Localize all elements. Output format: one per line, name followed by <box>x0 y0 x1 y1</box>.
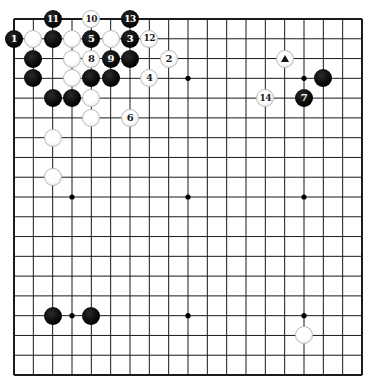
move-number: 3 <box>127 34 133 44</box>
star-point <box>301 194 306 199</box>
star-point <box>301 76 306 81</box>
move-number: 9 <box>107 54 113 64</box>
move-number: 14 <box>260 94 272 103</box>
move-number: 12 <box>144 34 156 43</box>
white-stone: 2 <box>160 50 178 68</box>
white-stone <box>102 30 120 48</box>
black-stone: 7 <box>295 89 313 107</box>
move-number: 1 <box>11 34 17 44</box>
star-point <box>69 313 74 318</box>
black-stone: 13 <box>121 10 139 28</box>
white-stone <box>63 50 81 68</box>
board-grid <box>0 0 373 389</box>
star-point <box>185 194 190 199</box>
white-stone: 6 <box>121 109 139 127</box>
white-stone <box>44 129 62 147</box>
triangle-marker-icon <box>281 55 289 62</box>
white-stone <box>276 50 294 68</box>
black-stone: 3 <box>121 30 139 48</box>
black-stone <box>44 307 62 325</box>
black-stone <box>44 30 62 48</box>
star-point <box>301 313 306 318</box>
move-number: 13 <box>124 15 136 24</box>
black-stone: 9 <box>102 50 120 68</box>
move-number: 8 <box>88 54 94 64</box>
move-number: 11 <box>47 15 59 24</box>
move-number: 10 <box>86 15 98 24</box>
move-number: 6 <box>127 113 133 123</box>
star-point <box>69 194 74 199</box>
move-number: 2 <box>165 54 171 64</box>
black-stone <box>24 50 42 68</box>
star-point <box>185 76 190 81</box>
move-number: 4 <box>146 73 152 83</box>
white-stone: 12 <box>140 30 158 48</box>
white-stone: 8 <box>82 50 100 68</box>
go-board[interactable]: 1110131531289246714 <box>0 0 373 389</box>
black-stone <box>63 89 81 107</box>
black-stone <box>82 307 100 325</box>
white-stone <box>44 168 62 186</box>
move-number: 5 <box>88 34 94 44</box>
move-number: 7 <box>301 93 307 103</box>
black-stone: 5 <box>82 30 100 48</box>
black-stone <box>44 89 62 107</box>
black-stone: 11 <box>44 10 62 28</box>
white-stone <box>24 30 42 48</box>
black-stone <box>121 50 139 68</box>
black-stone <box>102 69 120 87</box>
black-stone: 1 <box>5 30 23 48</box>
white-stone <box>63 30 81 48</box>
star-point <box>185 313 190 318</box>
